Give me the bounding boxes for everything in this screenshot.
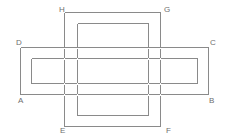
figure-canvas: H G D C A B E F: [0, 0, 225, 138]
label-H: H: [59, 6, 65, 14]
label-C: C: [210, 39, 216, 47]
label-D: D: [16, 39, 22, 47]
vertical-band-group: [65, 13, 161, 127]
label-G: G: [164, 6, 170, 14]
horizontal-band-group: [21, 48, 209, 95]
woven-rectangles-svg: [0, 0, 225, 138]
label-E: E: [60, 127, 65, 135]
label-A: A: [18, 97, 23, 105]
label-B: B: [209, 97, 214, 105]
label-F: F: [166, 127, 171, 135]
